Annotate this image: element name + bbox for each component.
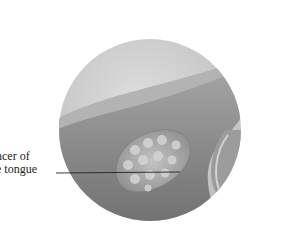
- tongue-cancer-illustration: [0, 0, 304, 234]
- label-line-2: e tongue: [0, 163, 37, 176]
